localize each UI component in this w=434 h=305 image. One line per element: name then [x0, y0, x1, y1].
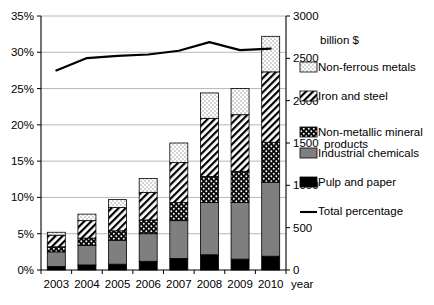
bar-segment[interactable]: [231, 89, 249, 115]
bar-segment[interactable]: [109, 240, 127, 264]
legend-item-label: Non-metallic mineral: [318, 126, 423, 138]
bar-segment[interactable]: [47, 252, 65, 267]
secondary-y-axis-unit-label: billion $: [320, 34, 360, 46]
legend-item-label: Iron and steel: [318, 90, 388, 102]
bar-segment[interactable]: [170, 163, 188, 203]
x-axis-tick-label: 2008: [197, 278, 223, 290]
y-axis-tick-label: 35%: [11, 10, 34, 22]
bar-segment[interactable]: [200, 176, 218, 202]
y-axis-tick-label: 10%: [11, 191, 34, 203]
bar-group[interactable]: [170, 143, 188, 270]
y-axis-tick-label: 25%: [11, 83, 34, 95]
bar-segment[interactable]: [78, 238, 96, 245]
bar-segment[interactable]: [262, 256, 280, 270]
y-axis-labels: 0%5%10%15%20%25%30%35%: [11, 10, 34, 276]
legend-item[interactable]: Total percentage: [300, 205, 403, 217]
legend-item-label: Non-ferrous metals: [318, 61, 416, 73]
legend-swatch: [300, 177, 317, 187]
bar-segment[interactable]: [47, 247, 65, 252]
bar-segment[interactable]: [139, 220, 157, 234]
bar-segment[interactable]: [200, 255, 218, 270]
x-axis-tick-label: 2009: [227, 278, 253, 290]
x-axis-tick-label: 2010: [258, 278, 284, 290]
legend-swatch: [300, 127, 317, 137]
x-axis-labels: 20032004200520062007200820092010year: [44, 278, 314, 290]
bar-segment[interactable]: [109, 231, 127, 240]
bar-segment[interactable]: [231, 203, 249, 260]
bar-segment[interactable]: [109, 200, 127, 208]
secondary-y-axis-tick-label: 0: [293, 264, 299, 276]
stacked-bar-chart: 0%5%10%15%20%25%30%35% 05001000150020002…: [0, 0, 434, 305]
legend-item-label: Pulp and paper: [318, 176, 396, 188]
y-axis-tick-label: 30%: [11, 46, 34, 58]
x-axis-tick-label: 2006: [135, 278, 161, 290]
legend-swatch: [300, 91, 317, 101]
bar-segment[interactable]: [139, 234, 157, 262]
bar-segment[interactable]: [78, 214, 96, 221]
bar-segment[interactable]: [139, 261, 157, 270]
y-axis-tick-label: 0%: [17, 264, 34, 276]
y-axis-tick-label: 15%: [11, 155, 34, 167]
legend-item[interactable]: Industrial chemicals: [300, 147, 419, 159]
y-axis-tick-label: 5%: [17, 228, 34, 240]
legend-swatch: [300, 148, 317, 158]
bar-segment[interactable]: [78, 265, 96, 270]
bar-segment[interactable]: [47, 232, 65, 235]
chart-container: 0%5%10%15%20%25%30%35% 05001000150020002…: [0, 0, 434, 305]
bar-segment[interactable]: [78, 245, 96, 265]
secondary-y-axis-tick-label: 1500: [293, 137, 319, 149]
x-axis-tick-label: 2005: [105, 278, 131, 290]
bar-group[interactable]: [231, 89, 249, 270]
bar-segment[interactable]: [78, 221, 96, 238]
bar-group[interactable]: [78, 214, 96, 270]
bar-segment[interactable]: [170, 221, 188, 259]
secondary-y-axis-tick-label: 3000: [293, 10, 319, 22]
bar-segment[interactable]: [231, 115, 249, 172]
bar-group[interactable]: [262, 36, 280, 270]
x-axis-tick-label: 2004: [74, 278, 100, 290]
x-axis-tick-label: 2007: [166, 278, 192, 290]
bar-segment[interactable]: [170, 203, 188, 221]
bar-segment[interactable]: [262, 142, 280, 182]
bar-group[interactable]: [109, 200, 127, 270]
bar-segment[interactable]: [200, 203, 218, 255]
bar-segment[interactable]: [109, 264, 127, 270]
legend-item[interactable]: Pulp and paper: [300, 176, 396, 188]
bar-segment[interactable]: [109, 208, 127, 231]
legend-item[interactable]: Iron and steel: [300, 90, 388, 102]
x-axis-title: year: [291, 278, 314, 290]
bar-group[interactable]: [200, 93, 218, 270]
legend-item-label: Industrial chemicals: [318, 147, 419, 159]
y-axis-tick-label: 20%: [11, 119, 34, 131]
bar-segment[interactable]: [139, 192, 157, 220]
bar-segment[interactable]: [139, 179, 157, 193]
x-axis-tick-label: 2003: [44, 278, 70, 290]
bar-segment[interactable]: [231, 259, 249, 270]
legend-swatch: [300, 62, 317, 72]
bar-segment[interactable]: [262, 72, 280, 142]
bar-segment[interactable]: [231, 171, 249, 202]
secondary-y-axis-tick-label: 500: [293, 222, 312, 234]
bar-segment[interactable]: [170, 143, 188, 163]
legend-item[interactable]: Non-ferrous metals: [300, 61, 416, 73]
bar-segment[interactable]: [200, 93, 218, 118]
bar-segment[interactable]: [170, 258, 188, 270]
bar-segment[interactable]: [262, 36, 280, 72]
bar-segment[interactable]: [200, 118, 218, 176]
bar-group[interactable]: [47, 232, 65, 270]
legend-item-label: Total percentage: [318, 205, 403, 217]
bar-segment[interactable]: [47, 235, 65, 247]
bar-group[interactable]: [139, 179, 157, 270]
bar-segment[interactable]: [262, 182, 280, 256]
